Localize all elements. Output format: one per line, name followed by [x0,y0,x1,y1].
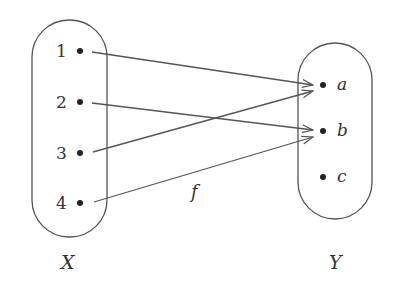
function-diagram: 1 2 3 4 a b c f X Y [0,0,394,290]
codomain-element-b: b [320,120,348,140]
codomain-element-c: c [320,166,347,186]
domain-element-1: 1 [56,41,83,61]
svg-text:4: 4 [56,193,67,213]
domain-element-4: 4 [56,193,83,213]
svg-text:2: 2 [56,92,67,112]
svg-text:3: 3 [56,143,67,163]
arrow-4-to-b [94,137,313,202]
arrow-3-to-a [93,91,313,152]
function-label: f [189,181,201,202]
domain-element-3: 3 [56,143,83,163]
arrow-1-to-a [92,52,313,85]
domain-element-2: 2 [56,92,83,112]
svg-text:b: b [337,120,348,140]
svg-text:1: 1 [56,41,67,61]
svg-text:a: a [337,74,347,94]
svg-text:c: c [337,166,347,186]
codomain-set-Y [298,43,372,219]
codomain-label: Y [329,251,344,273]
arrow-2-to-b [92,103,313,130]
domain-label: X [59,251,76,273]
codomain-element-a: a [320,74,347,94]
